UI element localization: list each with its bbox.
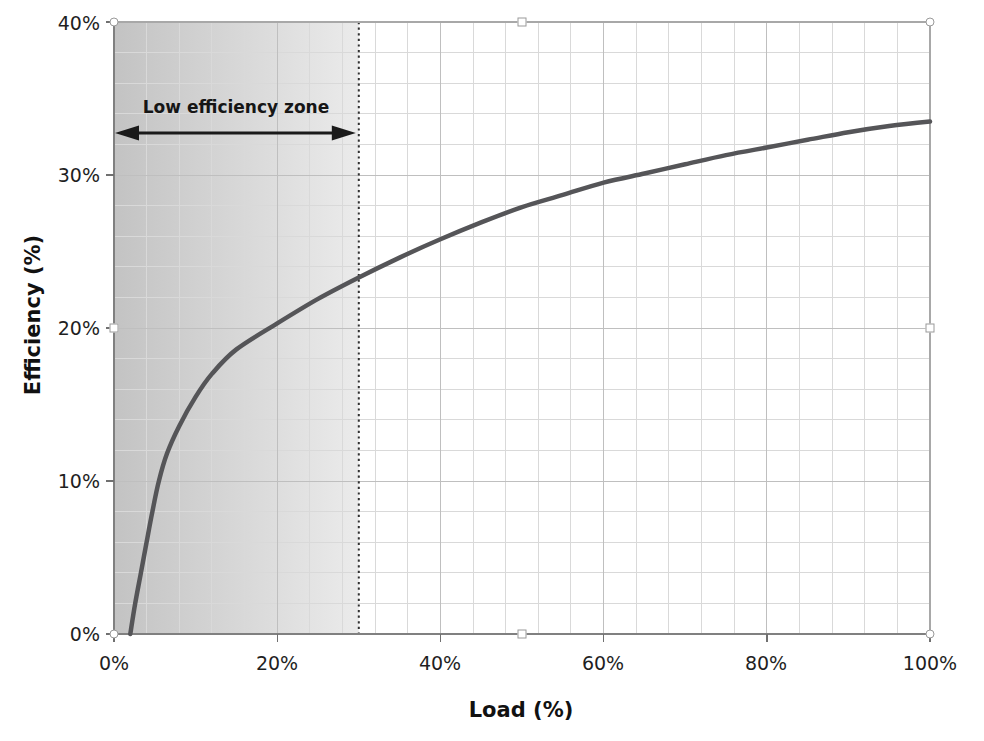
selection-handle-middle-right[interactable]	[926, 324, 935, 333]
x-tick-label-20: 20%	[256, 652, 298, 674]
selection-handle-bottom-right[interactable]	[926, 630, 935, 639]
x-tick-label-40: 40%	[419, 652, 461, 674]
selection-handle-top-center[interactable]	[518, 18, 527, 27]
x-axis-title: Load (%)	[469, 698, 574, 722]
x-tick-label-0: 0%	[99, 652, 129, 674]
selection-handle-top-left[interactable]	[110, 18, 119, 27]
selection-handle-top-right[interactable]	[926, 18, 935, 27]
x-tick-label-80: 80%	[745, 652, 787, 674]
y-tick-label-0: 0%	[26, 622, 100, 646]
x-tick-label-60: 60%	[582, 652, 624, 674]
y-tick-label-10: 10%	[26, 469, 100, 493]
x-tick-label-100: 100%	[903, 652, 957, 674]
y-axis-title: Efficiency (%)	[18, 165, 48, 465]
y-tick-label-40: 40%	[26, 11, 100, 35]
selection-handle-bottom-left[interactable]	[110, 630, 119, 639]
selection-handle-middle-left[interactable]	[110, 324, 119, 333]
selection-handle-bottom-center[interactable]	[518, 630, 527, 639]
chart-area[interactable]: 40% 30% 20% 10% 0% 0% 20% 40% 60% 80% 10…	[0, 0, 984, 741]
low-efficiency-zone-label: Low efficiency zone	[143, 97, 329, 117]
